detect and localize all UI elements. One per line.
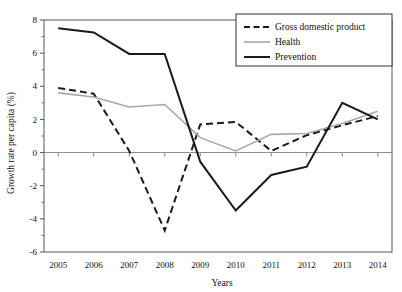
y-tick-label: -4 bbox=[30, 214, 38, 224]
y-axis-title: Growth rate per capita (%) bbox=[6, 92, 17, 194]
y-axis-ticks: 86420-2-4-6 bbox=[30, 15, 45, 257]
x-tick-label: 2014 bbox=[369, 260, 388, 270]
x-tick-label: 2008 bbox=[156, 260, 175, 270]
x-tick-label: 2005 bbox=[49, 260, 68, 270]
x-tick-label: 2013 bbox=[333, 260, 352, 270]
x-tick-label: 2011 bbox=[262, 260, 280, 270]
line-chart: 86420-2-4-6 2005200620072008200920102011… bbox=[0, 0, 402, 292]
y-tick-label: 0 bbox=[33, 148, 38, 158]
y-tick-label: -6 bbox=[30, 247, 38, 257]
x-axis-title: Years bbox=[211, 278, 233, 288]
y-tick-label: 2 bbox=[33, 115, 38, 125]
x-tick-label: 2010 bbox=[227, 260, 246, 270]
y-tick-label: -2 bbox=[30, 181, 38, 191]
x-tick-label: 2012 bbox=[298, 260, 316, 270]
series-line bbox=[58, 88, 378, 231]
y-tick-label: 8 bbox=[33, 15, 38, 25]
chart-legend: Gross domestic productHealthPrevention bbox=[236, 14, 392, 66]
series-line bbox=[58, 93, 378, 151]
x-tick-label: 2009 bbox=[191, 260, 210, 270]
y-tick-label: 6 bbox=[33, 48, 38, 58]
y-tick-label: 4 bbox=[33, 81, 38, 91]
legend-label: Gross domestic product bbox=[275, 22, 366, 32]
x-tick-label: 2006 bbox=[85, 260, 104, 270]
legend-label: Prevention bbox=[275, 52, 316, 62]
legend-label: Health bbox=[275, 37, 301, 47]
figure-container: 86420-2-4-6 2005200620072008200920102011… bbox=[0, 0, 402, 292]
x-tick-label: 2007 bbox=[120, 260, 139, 270]
